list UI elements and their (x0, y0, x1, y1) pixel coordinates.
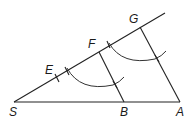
arc-lower (67, 68, 124, 87)
label-G: G (129, 12, 138, 26)
label-E: E (45, 63, 54, 77)
ray-SG (14, 13, 165, 102)
construction-diagram: S B A E F G (0, 0, 194, 123)
segment-GA (140, 27, 180, 102)
label-F: F (88, 37, 96, 51)
label-B: B (120, 105, 128, 119)
arc-upper (109, 43, 166, 61)
label-S: S (9, 105, 17, 119)
label-A: A (175, 105, 184, 119)
segment-FB (99, 52, 124, 102)
